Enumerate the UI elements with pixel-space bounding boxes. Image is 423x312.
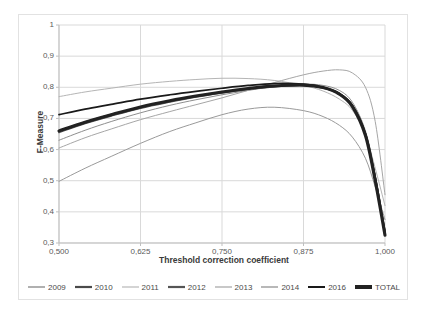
legend-label: 2016 [328,283,346,292]
legend-swatch-icon [168,282,185,292]
gridlines [59,25,385,243]
y-tick-label: 0,3 [28,238,54,247]
legend-swatch-icon [122,282,139,292]
legend-label: TOTAL [375,283,400,292]
axis-lines [56,25,385,246]
y-tick-label: 0,9 [28,51,54,60]
chart-legend: 2009201020112012201320142016TOTAL [19,277,409,297]
legend-item-2014[interactable]: 2014 [261,282,299,292]
legend-label: 2012 [188,283,206,292]
chart-figure: 0,30,40,50,60,70,80,91 0,5000,6250,7500,… [18,14,408,300]
x-axis-title: Threshold correction coefficient [59,255,389,265]
legend-item-2011[interactable]: 2011 [122,282,159,292]
legend-item-2013[interactable]: 2013 [215,282,253,292]
legend-item-2009[interactable]: 2009 [28,282,66,292]
legend-item-2016[interactable]: 2016 [308,282,346,292]
legend-label: 2011 [142,283,159,292]
legend-label: 2009 [48,283,66,292]
y-tick-label: 1 [28,20,54,29]
legend-item-total[interactable]: TOTAL [355,282,400,292]
y-tick-label: 0,4 [28,207,54,216]
legend-swatch-icon [28,282,45,292]
legend-swatch-icon [75,282,92,292]
legend-label: 2013 [235,283,253,292]
legend-swatch-icon [261,282,278,292]
legend-swatch-icon [215,282,232,292]
legend-label: 2010 [95,283,113,292]
legend-label: 2014 [281,283,299,292]
legend-swatch-icon [355,282,372,292]
legend-swatch-icon [308,282,325,292]
legend-item-2012[interactable]: 2012 [168,282,206,292]
y-tick-label: 0,5 [28,176,54,185]
y-axis-title: F-Measure [35,87,45,177]
plot-area: 0,30,40,50,60,70,80,91 0,5000,6250,7500,… [19,15,409,301]
legend-item-2010[interactable]: 2010 [75,282,113,292]
